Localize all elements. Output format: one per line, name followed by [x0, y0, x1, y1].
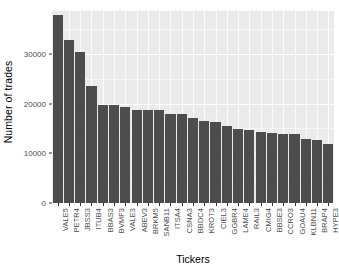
- y-tick-label: 30000: [24, 49, 46, 58]
- x-tick-label: GOAU4: [298, 208, 307, 234]
- bar: [199, 121, 209, 203]
- x-tick-mark: [91, 203, 92, 206]
- x-axis-title: Tickers: [52, 253, 334, 265]
- bar: [109, 105, 119, 203]
- bar: [64, 40, 74, 203]
- y-tick-label: 0: [42, 199, 46, 208]
- x-tick-label: KLBN11: [309, 208, 318, 236]
- x-tick-label: LAME4: [241, 208, 250, 233]
- bar: [120, 107, 130, 203]
- x-tick-mark: [306, 203, 307, 206]
- x-tick-label: BVMF3: [117, 208, 126, 233]
- bar: [289, 134, 299, 203]
- bar: [256, 132, 266, 203]
- bar: [267, 133, 277, 203]
- bar: [188, 118, 198, 203]
- x-tick-label: VALE5: [61, 208, 70, 231]
- x-tick-mark: [170, 203, 171, 206]
- bar: [86, 86, 96, 203]
- bar-chart-figure: Number of trades 0100002000030000 VALE5P…: [0, 0, 339, 272]
- x-tick-mark: [227, 203, 228, 206]
- x-tick-label: ITSA4: [173, 208, 182, 229]
- x-tick-mark: [58, 203, 59, 206]
- x-tick-label: BBAS3: [106, 208, 115, 232]
- x-tick-mark: [295, 203, 296, 206]
- x-tick-label: ITUB4: [94, 208, 103, 229]
- x-tick-mark: [80, 203, 81, 206]
- x-tick-mark: [125, 203, 126, 206]
- x-tick-label: VALE3: [128, 208, 137, 231]
- x-tick-mark: [69, 203, 70, 206]
- x-tick-label: BBSE3: [275, 208, 284, 232]
- y-tick-label: 10000: [24, 149, 46, 158]
- plot-panel: [52, 11, 334, 203]
- bar: [132, 110, 142, 204]
- x-tick-mark: [283, 203, 284, 206]
- x-tick-mark: [114, 203, 115, 206]
- y-axis-ticks: 0100002000030000: [16, 0, 52, 210]
- bar: [222, 126, 232, 203]
- x-tick-mark: [261, 203, 262, 206]
- x-tick-label: CSNA3: [185, 208, 194, 233]
- y-tick-label: 20000: [24, 99, 46, 108]
- x-tick-mark: [182, 203, 183, 206]
- bar: [143, 110, 153, 203]
- bar: [154, 110, 164, 203]
- x-tick-label: BRKM5: [151, 208, 160, 234]
- x-tick-label: HYPE3: [331, 208, 339, 233]
- x-tick-label: CMIG4: [264, 208, 273, 232]
- bar: [98, 105, 108, 203]
- bar: [53, 15, 63, 203]
- x-tick-mark: [193, 203, 194, 206]
- y-axis-title-text: Number of trades: [2, 60, 14, 143]
- x-tick-label: CCRO3: [286, 208, 295, 234]
- bar: [278, 134, 288, 203]
- x-tick-mark: [328, 203, 329, 206]
- bar: [75, 52, 85, 203]
- x-tick-mark: [204, 203, 205, 206]
- bar: [312, 140, 322, 203]
- x-tick-mark: [103, 203, 104, 206]
- x-tick-label: JBSS3: [83, 208, 92, 231]
- x-tick-label: BRAP4: [320, 208, 329, 233]
- x-tick-mark: [216, 203, 217, 206]
- x-tick-label: KROT3: [207, 208, 216, 233]
- bar: [301, 139, 311, 203]
- x-tick-label: PETR4: [72, 208, 81, 232]
- bar: [244, 130, 254, 203]
- x-tick-mark: [272, 203, 273, 206]
- x-tick-mark: [159, 203, 160, 206]
- x-tick-label: GGBR4: [230, 208, 239, 234]
- x-tick-label: CIEL3: [219, 208, 228, 229]
- x-tick-mark: [317, 203, 318, 206]
- x-tick-mark: [148, 203, 149, 206]
- bar: [177, 114, 187, 203]
- x-tick-label: ABEV3: [140, 208, 149, 232]
- y-axis-title: Number of trades: [0, 0, 16, 203]
- x-tick-label: RAIL3: [252, 208, 261, 229]
- bar: [165, 114, 175, 203]
- x-tick-mark: [238, 203, 239, 206]
- x-tick-label: BBDC4: [196, 208, 205, 233]
- x-tick-mark: [137, 203, 138, 206]
- bar: [210, 122, 220, 203]
- bar: [323, 144, 333, 203]
- x-tick-label: SANB11: [162, 208, 171, 236]
- x-tick-mark: [249, 203, 250, 206]
- bar: [233, 129, 243, 203]
